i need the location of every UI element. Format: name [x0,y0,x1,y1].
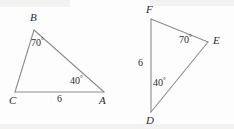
triangle-abc-outline [15,30,104,92]
degree-symbol-e: ° [189,33,192,41]
vertex-label-c: C [9,95,16,106]
vertex-label-f: F [146,4,153,15]
vertex-label-b: B [30,12,37,23]
side-length-fd: 6 [138,58,143,68]
vertex-label-d: D [146,115,154,126]
degree-symbol-a: ° [80,74,83,82]
side-length-ca: 6 [57,94,62,104]
angle-label-e: 70° [179,35,192,45]
triangle-def-outline [151,19,208,112]
segment-ba [34,30,104,92]
figure-canvas: B C A 70° 40° 6 F E D 70° 40° 6 [0,0,234,129]
angle-label-a: 40° [70,76,83,86]
vertex-label-a: A [99,95,106,106]
angle-label-b: 70° [31,38,44,48]
degree-symbol-d: ° [163,76,166,84]
degree-symbol-b: ° [41,36,44,44]
vertex-label-e: E [213,35,220,46]
angle-label-d: 40° [153,78,166,88]
